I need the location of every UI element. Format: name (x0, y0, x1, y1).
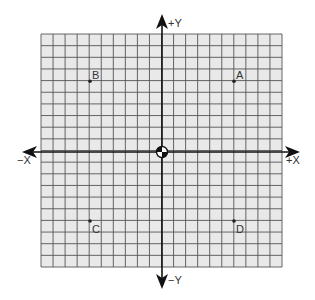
coordinate-plane-diagram: +X −X +Y −Y A B C (0, 0, 315, 300)
neg-x-label: −X (17, 154, 31, 166)
pos-y-label: +Y (168, 17, 182, 29)
neg-y-label: −Y (168, 274, 182, 286)
pos-x-label: +X (286, 154, 300, 166)
point-label: C (92, 223, 100, 235)
coordinate-plane: +X −X +Y −Y A B C (0, 0, 315, 300)
point-label: A (236, 69, 244, 81)
origin-target-icon (157, 147, 168, 158)
point-label: D (236, 223, 244, 235)
point-label: B (92, 69, 99, 81)
